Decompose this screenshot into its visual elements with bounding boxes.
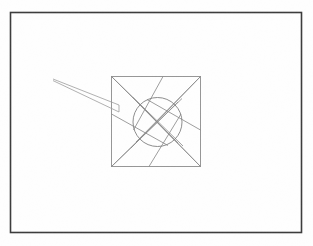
- line-drawing-svg: [0, 0, 313, 246]
- figure-canvas: [0, 0, 313, 246]
